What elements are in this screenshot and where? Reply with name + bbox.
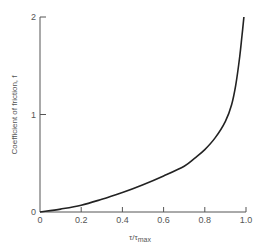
x-axis-title: τ/τmax xyxy=(129,233,151,243)
y-tick-label: 2 xyxy=(31,12,36,22)
friction-curve xyxy=(40,17,244,212)
x-ticks: 00.20.40.60.81.0 xyxy=(37,207,252,225)
y-tick-label: 0 xyxy=(31,207,36,217)
y-axis-title: Coefficient of friction, f xyxy=(10,75,19,155)
friction-chart: 00.20.40.60.81.0 012 Coefficient of fric… xyxy=(0,0,268,249)
axes xyxy=(40,17,246,212)
x-axis-title-sub: max xyxy=(138,236,152,243)
x-tick-label: 1.0 xyxy=(240,215,253,225)
y-tick-label: 1 xyxy=(31,110,36,120)
x-tick-label: 0.6 xyxy=(157,215,170,225)
x-tick-label: 0.4 xyxy=(116,215,129,225)
y-ticks: 012 xyxy=(31,12,46,217)
x-tick-label: 0 xyxy=(37,215,42,225)
x-tick-label: 0.2 xyxy=(75,215,88,225)
x-tick-label: 0.8 xyxy=(199,215,212,225)
